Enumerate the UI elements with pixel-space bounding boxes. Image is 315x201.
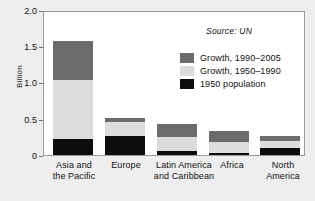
source-note: Source: UN <box>206 26 252 36</box>
bar-africa <box>209 131 249 155</box>
bar-segment-growth-1990-2005 <box>157 124 197 137</box>
population-growth-chart-figure: Billion 2.0 1.5 1.0 0.5 0 Source: UN Gro… <box>0 0 315 201</box>
legend-item-1950-population: 1950 population <box>180 78 281 89</box>
bar-segment-1950-population <box>53 139 93 155</box>
plot-area: Source: UN Growth, 1990–2005 Growth, 195… <box>43 11 305 156</box>
x-axis-label-line-1: North <box>252 160 314 171</box>
y-axis-tick-2.0: 2.0 <box>0 6 43 16</box>
x-axis-label-north-america: North America <box>252 160 314 182</box>
y-axis-tick-1.0: 1.0 <box>0 78 43 88</box>
legend-label-growth-1990-2005: Growth, 1990–2005 <box>200 53 281 63</box>
bar-north-america <box>260 136 300 155</box>
bar-segment-1950-population <box>105 136 145 155</box>
legend-item-growth-1990-2005: Growth, 1990–2005 <box>180 52 281 63</box>
clipped-title-text <box>0 0 315 3</box>
y-axis-tick-0: 0 <box>0 151 43 161</box>
y-axis-tick-0.5: 0.5 <box>0 115 43 125</box>
x-axis-label-line-2: the Pacific <box>43 171 105 182</box>
x-axis-label-line-2: and Caribbean <box>146 171 222 182</box>
legend-item-growth-1950-1990: Growth, 1950–1990 <box>180 65 281 76</box>
bar-europe <box>105 118 145 155</box>
legend-swatch-icon-1950-population <box>180 79 194 89</box>
legend-swatch-icon-growth-1950-1990 <box>180 66 194 76</box>
legend-label-growth-1950-1990: Growth, 1950–1990 <box>200 66 281 76</box>
bar-segment-growth-1950-1990 <box>105 122 145 136</box>
bar-asia-and-the-pacific <box>53 41 93 155</box>
bar-segment-growth-1990-2005 <box>53 41 93 80</box>
bar-segment-growth-1950-1990 <box>53 80 93 139</box>
bar-segment-1950-population <box>209 153 249 155</box>
bar-segment-1950-population <box>260 148 300 155</box>
bar-segment-growth-1950-1990 <box>157 137 197 151</box>
legend-label-1950-population: 1950 population <box>200 79 266 89</box>
legend-swatch-icon-growth-1990-2005 <box>180 53 194 63</box>
bar-segment-1950-population <box>157 151 197 155</box>
y-axis-tick-1.5: 1.5 <box>0 42 43 52</box>
bar-segment-growth-1950-1990 <box>209 142 249 153</box>
y-axis-title: Billion <box>15 47 24 107</box>
bar-latin-america-and-caribbean <box>157 124 197 155</box>
chart-legend: Growth, 1990–2005 Growth, 1950–1990 1950… <box>180 52 281 91</box>
bar-segment-growth-1990-2005 <box>209 131 249 142</box>
x-axis-label-line-2: America <box>252 171 314 182</box>
